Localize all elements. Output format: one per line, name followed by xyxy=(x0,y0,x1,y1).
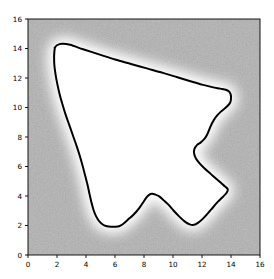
x-tick-label: 10 xyxy=(168,260,178,269)
contour-plot: 0246810121416 0246810121416 xyxy=(0,0,274,279)
x-tick-label: 4 xyxy=(84,260,89,269)
x-tick-label: 6 xyxy=(113,260,118,269)
y-tick-label: 8 xyxy=(17,133,22,142)
y-tick-label: 16 xyxy=(13,15,23,24)
x-tick-label: 0 xyxy=(26,260,31,269)
y-tick-label: 6 xyxy=(17,162,22,171)
y-tick-label: 14 xyxy=(13,44,23,53)
y-tick-label: 0 xyxy=(17,251,22,260)
x-tick-label: 12 xyxy=(197,260,206,269)
x-tick-label: 14 xyxy=(226,260,236,269)
y-tick-label: 12 xyxy=(13,74,22,83)
y-tick-label: 4 xyxy=(17,192,22,201)
x-tick-label: 8 xyxy=(142,260,147,269)
x-tick-label: 16 xyxy=(255,260,265,269)
y-tick-label: 10 xyxy=(13,103,23,112)
x-tick-label: 2 xyxy=(55,260,60,269)
y-tick-label: 2 xyxy=(17,221,22,230)
figure-canvas: 0246810121416 0246810121416 xyxy=(0,0,274,279)
